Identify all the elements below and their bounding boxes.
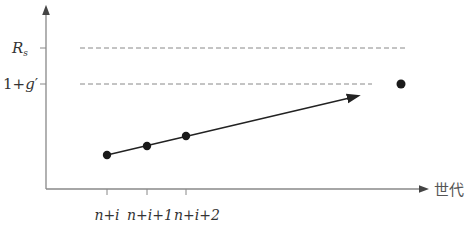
label-g-prime: ′: [35, 75, 39, 93]
label-rs-base: R: [11, 39, 23, 57]
tick-label-1: n+i: [94, 207, 119, 223]
label-g: 1+g′: [3, 75, 39, 93]
x-axis-label: 世代: [434, 181, 464, 199]
limit-point: [397, 80, 406, 89]
point-n-i-2: [182, 132, 190, 140]
point-n-i: [103, 151, 111, 159]
label-rs: Rs: [11, 39, 28, 58]
label-g-prefix: 1+: [3, 75, 25, 93]
point-n-i-1: [143, 142, 151, 150]
label-g-var: g: [25, 75, 35, 93]
tick-label-2: n+i+1: [127, 207, 173, 223]
tick-label-3: n+i+2: [174, 207, 220, 223]
label-rs-sub: s: [23, 48, 28, 58]
diagram-canvas: Rs 1+g′ n+i n+i+1 n+i+2 世代: [0, 0, 476, 230]
